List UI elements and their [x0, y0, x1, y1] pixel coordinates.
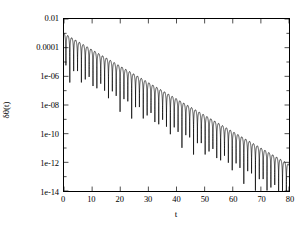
y-axis-tick-label: 1e-06 — [40, 72, 59, 81]
x-axis-tick-label: 10 — [87, 195, 95, 204]
x-axis-tick-label: 80 — [286, 195, 294, 204]
data-series-curve — [64, 33, 289, 191]
y-axis-tick-label: 0.01 — [45, 14, 59, 23]
y-axis-tick-label: 1e-12 — [40, 159, 59, 168]
y-axis-title: δθ(t) — [1, 90, 11, 130]
plot-area — [63, 18, 290, 192]
x-axis-tick-label: 30 — [144, 195, 152, 204]
x-axis-tick-label: 20 — [116, 195, 124, 204]
y-axis-tick-label: 1e-08 — [40, 101, 59, 110]
x-axis-tick-label: 0 — [61, 195, 65, 204]
x-axis-tick-label: 40 — [172, 195, 180, 204]
y-axis-tick-label: 1e-14 — [40, 188, 59, 197]
x-axis-title: t — [175, 209, 178, 219]
chart-figure: 0.010.00011e-061e-081e-101e-121e-14 t δθ… — [0, 0, 303, 228]
y-axis-tick-label: 0.0001 — [36, 43, 59, 52]
x-axis-tick-label: 70 — [257, 195, 265, 204]
y-axis-tick-label: 1e-10 — [40, 130, 59, 139]
data-plot-svg — [64, 19, 289, 191]
x-axis-tick-label: 60 — [229, 195, 237, 204]
x-axis-tick-label: 50 — [201, 195, 209, 204]
